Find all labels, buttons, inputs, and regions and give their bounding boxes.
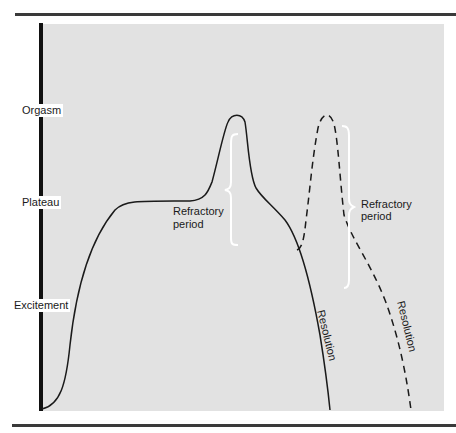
dashed-response-curve [297,115,411,410]
solid-response-curve [42,115,330,410]
refractory-label-2-line2: period [361,210,392,222]
refractory-label-1-line2: period [173,218,204,230]
response-cycle-diagram: Refractory period Refractory period Reso… [0,0,456,433]
refractory-brace-1 [225,134,238,245]
resolution-label-1: Resolution [315,309,339,362]
refractory-brace-2 [342,126,354,288]
refractory-label-2-line1: Refractory [361,198,412,210]
refractory-label-1-line1: Refractory [173,205,224,217]
